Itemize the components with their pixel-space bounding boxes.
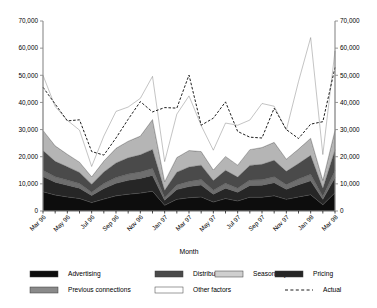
x-axis-tick-label: Sep 97	[247, 213, 267, 233]
x-axis-tick-label: May 97	[198, 213, 219, 234]
chart-legend: AdvertisingDistributionSeasonalityPricin…	[30, 270, 342, 293]
x-axis-tick-label: Jan 97	[150, 213, 169, 232]
x-axis: Mar 96May 96Jul 96Sep 96Nov 96Jan 97Mar …	[28, 211, 339, 234]
legend-label-previous-connections: Previous connections	[68, 286, 131, 293]
x-axis-tick-label: Mar 98	[320, 213, 339, 232]
y-axis-left-tick-label: 10,000	[18, 180, 38, 187]
y-axis-right-tick-label: 60,000	[340, 44, 360, 51]
y-axis-right-ticks: 010,00020,00030,00040,00050,00060,00070,…	[335, 17, 360, 214]
x-axis-tick-label: Sep 96	[101, 213, 121, 233]
legend-label-other-factors: Other factors	[193, 286, 232, 293]
y-axis-right-tick-label: 30,000	[340, 126, 360, 133]
y-axis-right-tick-label: 10,000	[340, 180, 360, 187]
y-axis-right-tick-label: 0	[340, 207, 344, 214]
y-axis-left: 010,00020,00030,00040,00050,00060,00070,…	[18, 17, 43, 214]
chart-canvas: 010,00020,00030,00040,00050,00060,00070,…	[0, 0, 377, 308]
y-axis-left-tick-label: 50,000	[18, 72, 38, 79]
y-axis-left-tick-label: 60,000	[18, 44, 38, 51]
x-axis-tick-label: Nov 97	[271, 213, 290, 232]
x-axis-title: Month	[180, 248, 199, 255]
y-axis-right-tick-label: 20,000	[340, 153, 360, 160]
x-axis-ticks: Mar 96May 96Jul 96Sep 96Nov 96Jan 97Mar …	[28, 211, 339, 234]
x-axis-tick-label: Mar 97	[174, 213, 193, 232]
y-axis-right-tick-label: 70,000	[340, 17, 360, 24]
x-axis-tick-label: Jan 98	[296, 213, 315, 232]
stacked-area-chart: 010,00020,00030,00040,00050,00060,00070,…	[0, 0, 377, 308]
legend-swatch-other-factors	[155, 287, 183, 293]
y-axis-left-tick-label: 30,000	[18, 126, 38, 133]
legend-swatch-advertising	[30, 271, 58, 277]
x-axis-tick-label: Jul 97	[225, 213, 242, 230]
legend-label-actual: Actual	[323, 286, 342, 293]
legend-swatch-seasonality	[215, 271, 243, 277]
y-axis-right-tick-label: 50,000	[340, 72, 360, 79]
y-axis-left-ticks: 010,00020,00030,00040,00050,00060,00070,…	[18, 17, 43, 214]
x-axis-tick-label: Nov 96	[125, 213, 144, 232]
y-axis-left-tick-label: 20,000	[18, 153, 38, 160]
x-axis-tick-label: May 96	[52, 213, 73, 234]
x-axis-tick-label: Jul 96	[79, 213, 96, 230]
legend-label-pricing: Pricing	[313, 270, 333, 278]
legend-swatch-distribution	[155, 271, 183, 277]
legend-label-advertising: Advertising	[68, 270, 101, 278]
y-axis-left-tick-label: 40,000	[18, 99, 38, 106]
y-axis-left-tick-label: 70,000	[18, 17, 38, 24]
y-axis-left-tick-label: 0	[34, 207, 38, 214]
legend-swatch-pricing	[275, 271, 303, 277]
y-axis-right-tick-label: 40,000	[340, 99, 360, 106]
x-axis-tick-label: Mar 96	[28, 213, 47, 232]
y-axis-right: 010,00020,00030,00040,00050,00060,00070,…	[335, 17, 360, 214]
legend-swatch-previous-connections	[30, 287, 58, 293]
